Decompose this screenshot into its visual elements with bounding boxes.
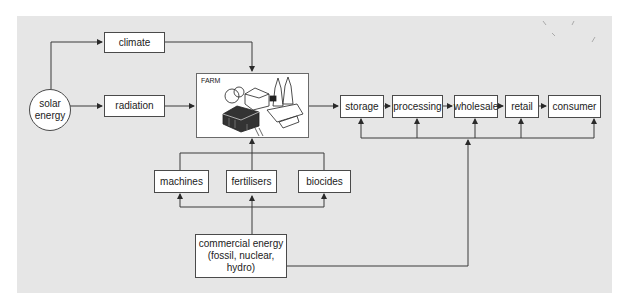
scan-artifact-marks xyxy=(0,0,631,306)
